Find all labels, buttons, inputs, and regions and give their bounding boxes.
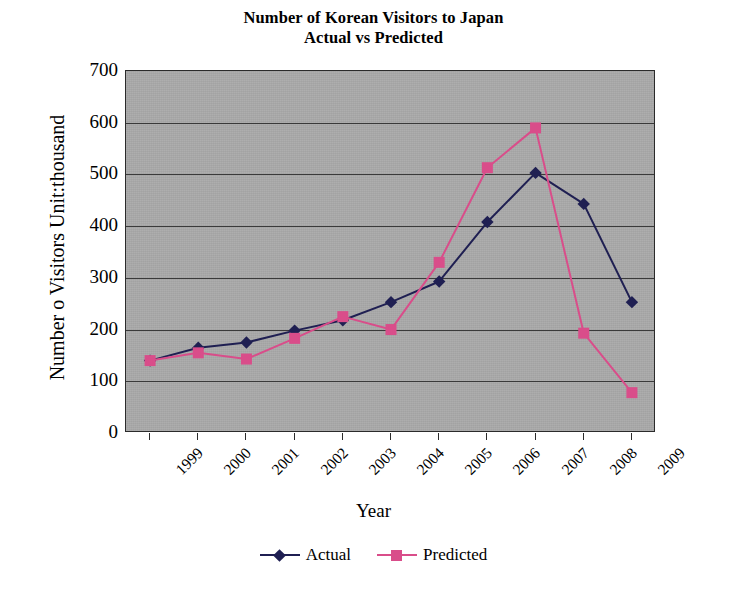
chart-title-line1: Number of Korean Visitors to Japan (244, 8, 504, 27)
data-point-square (482, 162, 493, 173)
legend-label: Predicted (422, 545, 487, 565)
y-tick-label: 400 (50, 215, 118, 234)
data-point-square (434, 257, 445, 268)
data-point-square (193, 347, 204, 358)
x-tick-label: 2003 (365, 444, 400, 479)
legend-item-predicted[interactable]: Predicted (377, 545, 487, 565)
series-layer (126, 71, 655, 432)
x-tick-label: 2002 (317, 444, 352, 479)
x-tick-label: 2008 (606, 444, 641, 479)
chart-legend: ActualPredicted (0, 545, 747, 565)
y-tick-label: 300 (50, 267, 118, 286)
x-tick-label: 2000 (220, 444, 255, 479)
legend-label: Actual (305, 545, 351, 565)
data-point-square (386, 324, 397, 335)
data-point-square (626, 387, 637, 398)
data-point-diamond (578, 198, 590, 210)
legend-square-icon (391, 550, 402, 561)
series-actual (144, 167, 638, 367)
x-tick-label: 1999 (172, 444, 207, 479)
x-tick-label: 2004 (413, 444, 448, 479)
y-tick-label: 100 (50, 370, 118, 389)
data-point-square (145, 355, 156, 366)
x-axis-title: Year (0, 500, 747, 522)
data-point-diamond (385, 296, 397, 308)
legend-item-actual[interactable]: Actual (260, 545, 351, 565)
series-line (150, 128, 632, 393)
y-tick-label: 600 (50, 112, 118, 131)
plot-area (125, 70, 655, 432)
x-tick-label: 2007 (558, 444, 593, 479)
x-tick-label: 2001 (269, 444, 304, 479)
data-point-diamond (240, 336, 252, 348)
y-tick-label: 200 (50, 319, 118, 338)
x-tick-label: 2006 (509, 444, 544, 479)
x-tick-label: 2009 (654, 444, 689, 479)
data-point-square (241, 354, 252, 365)
data-point-square (530, 122, 541, 133)
legend-diamond-icon (273, 549, 286, 562)
y-tick-label: 700 (50, 60, 118, 79)
data-point-square (578, 328, 589, 339)
legend-swatch (377, 548, 417, 562)
data-point-square (337, 311, 348, 322)
x-tick-label: 2005 (461, 444, 496, 479)
series-predicted (145, 122, 638, 398)
chart-figure: Number of Korean Visitors to Japan Actua… (0, 0, 747, 596)
y-tick-label: 500 (50, 163, 118, 182)
legend-swatch (260, 548, 300, 562)
data-point-square (289, 333, 300, 344)
data-point-diamond (626, 296, 638, 308)
